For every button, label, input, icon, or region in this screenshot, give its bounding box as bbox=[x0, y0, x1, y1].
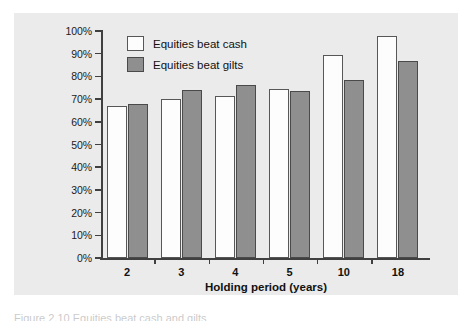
bar-equities-beat-cash bbox=[215, 96, 235, 258]
y-axis-label: 30% bbox=[50, 185, 92, 195]
x-axis-tick bbox=[154, 259, 156, 264]
x-axis-label: 10 bbox=[327, 266, 361, 278]
gray-square-icon bbox=[127, 57, 144, 72]
x-axis-tick bbox=[371, 259, 373, 264]
x-axis-tick bbox=[209, 259, 211, 264]
y-axis-label: 40% bbox=[50, 162, 92, 172]
y-axis-label: 70% bbox=[50, 94, 92, 104]
x-axis-tick bbox=[317, 259, 319, 264]
bar-equities-beat-gilts bbox=[128, 104, 148, 258]
bar-equities-beat-gilts bbox=[182, 90, 202, 258]
bar-equities-beat-cash bbox=[107, 106, 127, 258]
legend-item-gilts: Equities beat gilts bbox=[127, 54, 247, 75]
y-axis-label: 100% bbox=[50, 26, 92, 36]
y-axis-label: 80% bbox=[50, 71, 92, 81]
x-axis-label: 3 bbox=[164, 266, 198, 278]
chart-legend: Equities beat cash Equities beat gilts bbox=[127, 33, 247, 75]
x-axis-line bbox=[100, 258, 430, 260]
y-axis-label: 90% bbox=[50, 49, 92, 59]
x-axis-label: 5 bbox=[273, 266, 307, 278]
bar-equities-beat-cash bbox=[161, 99, 181, 258]
bar-equities-beat-gilts bbox=[398, 61, 418, 258]
bar-equities-beat-cash bbox=[269, 89, 289, 258]
bar-equities-beat-cash bbox=[323, 55, 343, 258]
x-axis-label: 18 bbox=[381, 266, 415, 278]
legend-item-cash: Equities beat cash bbox=[127, 33, 247, 54]
x-axis-label: 4 bbox=[218, 266, 252, 278]
y-axis-label: 60% bbox=[50, 117, 92, 127]
bar-equities-beat-cash bbox=[377, 36, 397, 258]
y-axis-label: 0% bbox=[50, 253, 92, 263]
legend-label-cash: Equities beat cash bbox=[153, 38, 247, 50]
white-square-icon bbox=[127, 36, 144, 51]
figure-panel: 0%10%20%30%40%50%60%70%80%90%100% 234510… bbox=[14, 13, 458, 295]
x-axis-label: 2 bbox=[110, 266, 144, 278]
figure-caption: Figure 2.10 Equities beat cash and gilts bbox=[14, 312, 314, 321]
y-axis-label: 10% bbox=[50, 230, 92, 240]
x-axis-title: Holding period (years) bbox=[101, 281, 431, 293]
y-axis-label: 20% bbox=[50, 208, 92, 218]
bar-equities-beat-gilts bbox=[344, 80, 364, 258]
bar-equities-beat-gilts bbox=[290, 91, 310, 258]
legend-label-gilts: Equities beat gilts bbox=[153, 59, 243, 71]
bar-equities-beat-gilts bbox=[236, 85, 256, 258]
y-axis-label: 50% bbox=[50, 140, 92, 150]
x-axis-tick bbox=[263, 259, 265, 264]
